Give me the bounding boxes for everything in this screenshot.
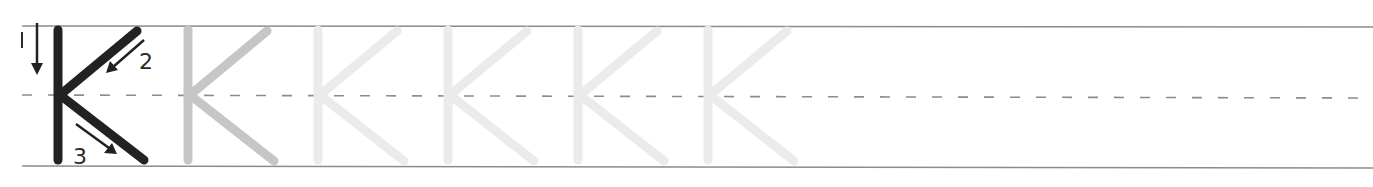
stroke-number-2: 2	[139, 51, 153, 73]
handwriting-practice-sheet: 2 3	[0, 0, 1373, 187]
arrow-icon-stroke-1	[31, 23, 43, 75]
trace-letter-k-5	[708, 30, 794, 161]
stroke-number-3: 3	[73, 146, 87, 168]
writing-guides	[0, 0, 1373, 187]
trace-letter-k-4	[578, 30, 664, 161]
top-guide-line	[22, 26, 1373, 27]
midline-dashed	[22, 95, 1373, 98]
bottom-guide-line	[22, 166, 1373, 168]
